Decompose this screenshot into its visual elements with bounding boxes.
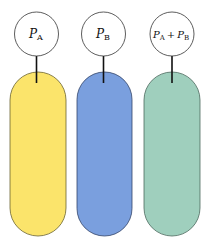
capsule-a	[10, 72, 66, 236]
capsule-b	[77, 72, 132, 236]
item-a-plus-b: PA+PB	[144, 12, 200, 236]
label-ab-sub2: B	[184, 34, 189, 42]
label-ab-plus: +	[167, 29, 175, 40]
label-ab-sub1: A	[159, 34, 166, 42]
label-b-sub: B	[104, 33, 110, 42]
probability-diagram: PA PB PA+PB	[0, 0, 207, 245]
capsule-a-plus-b	[144, 72, 200, 236]
label-a-sub: A	[36, 33, 43, 42]
item-a: PA	[10, 12, 66, 236]
item-b: PB	[77, 12, 132, 236]
